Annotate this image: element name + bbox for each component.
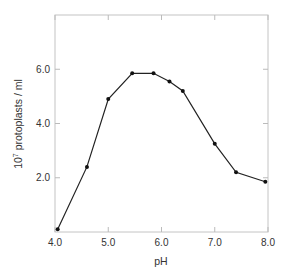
data-point: [130, 71, 134, 75]
data-point: [181, 89, 185, 93]
data-point: [213, 142, 217, 146]
y-axis-ticks: [55, 69, 268, 178]
x-tick-label: 7.0: [208, 237, 222, 248]
data-line: [58, 73, 266, 229]
line-chart: 4.05.06.07.08.0 2.04.06.0 pH 107 protopl…: [0, 0, 289, 275]
y-tick-label: 4.0: [36, 118, 50, 129]
y-axis-label-base: 10: [12, 157, 24, 169]
data-point: [85, 165, 89, 169]
x-tick-label: 4.0: [48, 237, 62, 248]
x-axis-ticks: [55, 15, 268, 232]
y-axis-label-rest: protoplasts / ml: [12, 79, 24, 153]
data-point: [263, 180, 267, 184]
x-tick-label: 5.0: [101, 237, 115, 248]
data-point: [234, 170, 238, 174]
plot-frame: [55, 15, 268, 232]
y-axis-tick-labels: 2.04.06.0: [36, 64, 50, 184]
x-tick-label: 8.0: [261, 237, 275, 248]
y-tick-label: 6.0: [36, 64, 50, 75]
x-tick-label: 6.0: [155, 237, 169, 248]
data-point: [152, 71, 156, 75]
x-axis-tick-labels: 4.05.06.07.08.0: [48, 237, 275, 248]
x-axis-label: pH: [154, 255, 167, 267]
y-axis-label: 107 protoplasts / ml: [12, 79, 24, 169]
data-point: [106, 97, 110, 101]
y-tick-label: 2.0: [36, 172, 50, 183]
data-point: [56, 227, 60, 231]
data-point: [167, 79, 171, 83]
data-markers: [56, 71, 268, 231]
